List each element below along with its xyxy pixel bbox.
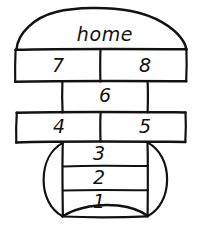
cell-label-2: 2 — [93, 166, 105, 188]
cell-label-8: 8 — [139, 54, 151, 76]
hopscotch-diagram: home 7 8 6 4 5 3 2 1 — [0, 0, 202, 228]
home-label: home — [77, 23, 133, 45]
row-four-five — [16, 112, 186, 143]
row-seven-eight — [15, 49, 187, 82]
cell-label-5: 5 — [139, 115, 151, 137]
stack-three-two-one — [62, 142, 148, 217]
cell-label-6: 6 — [99, 84, 111, 106]
cell-label-1: 1 — [93, 190, 105, 212]
cell-label-3: 3 — [93, 142, 105, 164]
cell-label-7: 7 — [52, 54, 64, 76]
cell-label-4: 4 — [53, 115, 65, 137]
